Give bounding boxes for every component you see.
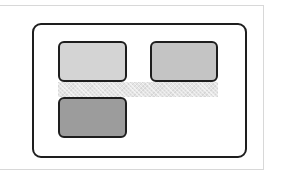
top-left-box [58, 41, 127, 82]
hatched-gap-strip [58, 82, 218, 97]
bottom-left-box [58, 97, 127, 138]
top-right-box [150, 41, 218, 82]
